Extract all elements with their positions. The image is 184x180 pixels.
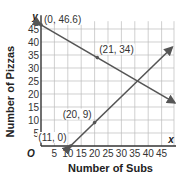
- point-annotation: (21, 34): [99, 44, 133, 55]
- point-annotation: (0, 46.6): [44, 14, 81, 25]
- point-annotation: (20, 9): [63, 109, 92, 120]
- y-tick-label: 40: [28, 37, 40, 48]
- x-tick-label: 40: [143, 148, 155, 159]
- y-tick-label: 30: [28, 63, 40, 74]
- y-tick-label: 35: [28, 50, 40, 61]
- y-tick-label: 10: [28, 115, 40, 126]
- x-tick-label: 15: [76, 148, 88, 159]
- data-point: [39, 23, 43, 27]
- x-tick-label: 10: [62, 148, 74, 159]
- y-axis-title: Number of Pizzas: [4, 46, 16, 138]
- origin-label: O: [27, 148, 35, 159]
- line-chart: 5101520253035404551015202530354045OxyNum…: [0, 0, 184, 180]
- x-tick-label: 20: [89, 148, 101, 159]
- x-tick-label: 35: [129, 148, 141, 159]
- y-tick-label: 45: [28, 24, 40, 35]
- x-axis-title: Number of Subs: [68, 162, 153, 174]
- x-variable-label: x: [167, 134, 174, 145]
- y-tick-label: 15: [28, 102, 40, 113]
- y-tick-label: 20: [28, 89, 40, 100]
- x-tick-label: 45: [156, 148, 168, 159]
- chart-svg: 5101520253035404551015202530354045OxyNum…: [0, 0, 184, 180]
- x-tick-label: 25: [102, 148, 114, 159]
- x-tick-label: 30: [116, 148, 128, 159]
- data-point: [93, 121, 97, 125]
- data-point: [69, 144, 73, 148]
- y-variable-label: y: [31, 11, 38, 22]
- y-tick-label: 25: [28, 76, 40, 87]
- x-tick-label: 5: [52, 148, 58, 159]
- point-annotation: (11, 0): [38, 132, 66, 143]
- data-point: [95, 56, 99, 60]
